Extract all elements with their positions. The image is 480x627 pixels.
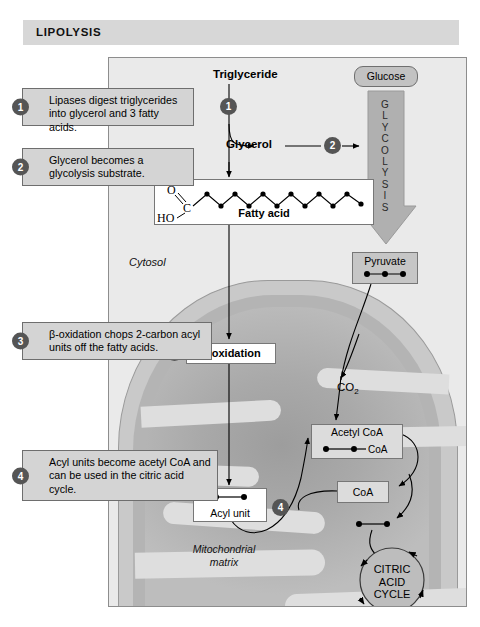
matrix-label-line2: matrix <box>169 556 279 569</box>
callout-text-4: Acyl units become acetyl CoA and can be … <box>49 456 211 495</box>
mitochondrial-matrix-label: Mitochondrial matrix <box>169 543 279 569</box>
glycolysis-letter: Y <box>364 167 406 178</box>
cycle-line1: CITRIC <box>360 563 424 576</box>
callout-step-1: 1 Lipases digest triglycerides into glyc… <box>22 88 194 126</box>
glycolysis-letter: O <box>364 145 406 156</box>
triglyceride-label: Triglyceride <box>213 68 278 80</box>
matrix-label-line1: Mitochondrial <box>169 543 279 556</box>
glycolysis-letter: G <box>364 99 406 110</box>
cycle-line3: CYCLE <box>360 588 424 601</box>
lipolysis-figure: LIPOLYSIS Cytosol Mitochondrial matrix <box>0 0 480 627</box>
glycolysis-letter: C <box>364 133 406 144</box>
acetyl-coa-structure: CoA <box>312 441 402 457</box>
carbon-dioxide-label: CO2 <box>337 381 359 396</box>
glycolysis-letter: L <box>364 156 406 167</box>
fatty-acid-label: Fatty acid <box>155 207 373 219</box>
step-marker-4: 4 <box>272 499 289 516</box>
crista <box>141 399 282 427</box>
two-carbon-unit <box>347 516 403 532</box>
callout-step-4: 4 Acyl units become acetyl CoA and can b… <box>22 450 218 501</box>
glycerol-label: Glycerol <box>226 138 272 150</box>
callout-text-3: β-oxidation chops 2-carbon acyl units of… <box>49 328 200 353</box>
cytosol-label: Cytosol <box>129 256 166 268</box>
step-marker-1: 1 <box>220 98 237 115</box>
glycolysis-letter: L <box>364 110 406 121</box>
glucose-label: Glucose <box>354 66 418 87</box>
callout-number-4: 4 <box>12 467 29 484</box>
callout-number-1: 1 <box>12 99 29 116</box>
callout-step-2: 2 Glycerol becomes a glycolysis substrat… <box>22 148 194 186</box>
pyruvate-box: Pyruvate <box>352 252 418 284</box>
co2-subscript: 2 <box>354 387 358 396</box>
callout-text-2: Glycerol becomes a glycolysis substrate. <box>49 154 145 179</box>
acetyl-coa-label: Acetyl CoA <box>312 426 402 438</box>
cycle-line2: ACID <box>360 576 424 589</box>
pyruvate-label: Pyruvate <box>353 255 417 267</box>
pyruvate-structure <box>353 267 417 281</box>
citric-acid-cycle-label: CITRIC ACID CYCLE <box>360 563 424 601</box>
page-title: LIPOLYSIS <box>36 26 101 38</box>
callout-step-3: 3 β-oxidation chops 2-carbon acyl units … <box>22 322 212 360</box>
callout-number-3: 3 <box>12 333 29 350</box>
acetyl-coa-tag-label: CoA <box>368 444 388 455</box>
glycolysis-letter: Y <box>364 122 406 133</box>
acetyl-coa-box: Acetyl CoA CoA <box>311 424 403 459</box>
acyl-unit-label: Acyl unit <box>194 507 266 519</box>
callout-number-2: 2 <box>12 159 29 176</box>
coa-box: CoA <box>337 481 389 503</box>
co2-text: CO <box>337 381 354 393</box>
step-marker-2: 2 <box>324 137 341 154</box>
